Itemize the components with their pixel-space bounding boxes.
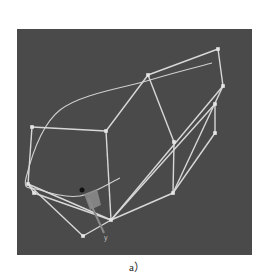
cage-edge-EI[interactable] xyxy=(173,86,223,193)
control-vertex-L[interactable] xyxy=(26,182,30,186)
3d-viewport[interactable]: y xyxy=(17,29,252,255)
control-vertex-M[interactable] xyxy=(32,191,36,195)
cage-edge-LK[interactable] xyxy=(28,184,83,236)
cage-edge-CH[interactable] xyxy=(148,75,174,142)
cage-edge-MJ[interactable] xyxy=(34,193,111,220)
cage-edge-BC[interactable] xyxy=(106,75,148,131)
control-vertex-B[interactable] xyxy=(104,129,108,133)
control-vertex-C[interactable] xyxy=(146,73,150,77)
control-vertex-E[interactable] xyxy=(221,84,225,88)
cage-edge-EJ[interactable] xyxy=(111,86,223,220)
control-vertex-G[interactable] xyxy=(213,131,217,135)
control-vertex-J[interactable] xyxy=(109,218,113,222)
control-vertex-F[interactable] xyxy=(213,102,217,106)
control-vertex-H[interactable] xyxy=(172,140,176,144)
control-vertices xyxy=(26,47,225,238)
cage-edge-DE[interactable] xyxy=(218,49,223,86)
gizmo-pivot-point[interactable] xyxy=(80,188,85,193)
control-cage-edges xyxy=(28,49,223,236)
cage-edge-AL[interactable] xyxy=(28,127,32,184)
wireframe-scene: y xyxy=(17,29,252,255)
control-vertex-I[interactable] xyxy=(171,191,175,195)
cage-edge-GI[interactable] xyxy=(173,133,215,193)
cage-edge-FJ[interactable] xyxy=(111,104,215,220)
control-vertex-D[interactable] xyxy=(216,47,220,51)
cage-edge-BJ[interactable] xyxy=(106,131,111,220)
cage-edge-IJ[interactable] xyxy=(111,193,173,220)
gizmo-axis-label: y xyxy=(104,234,108,242)
control-vertex-K[interactable] xyxy=(81,234,85,238)
control-vertex-A[interactable] xyxy=(30,125,34,129)
figure-caption: a） xyxy=(0,258,274,274)
